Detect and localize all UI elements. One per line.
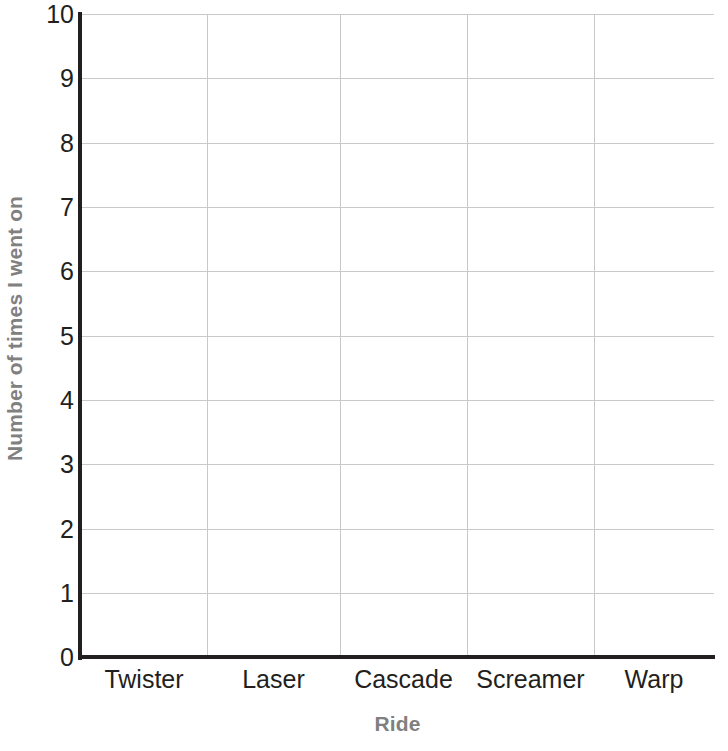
y-axis-tick-labels: 10 9 8 7 6 5 4 3 2 1 0 [30, 0, 74, 680]
gridline-vertical [340, 14, 341, 657]
gridline-horizontal [81, 271, 714, 272]
y-tick-label: 1 [30, 581, 74, 606]
y-tick-label: 5 [30, 324, 74, 349]
gridline-vertical [594, 14, 595, 657]
gridline-horizontal [81, 464, 714, 465]
y-tick-label: 9 [30, 66, 74, 91]
x-tick-label-screamer: Screamer [467, 664, 594, 695]
gridline-horizontal [81, 78, 714, 79]
x-tick-label-cascade: Cascade [340, 664, 467, 695]
gridline-vertical [467, 14, 468, 657]
x-tick-label-laser: Laser [207, 664, 340, 695]
bar-chart: Number of times I went on 10 9 8 7 6 5 4… [0, 0, 728, 751]
plot-area [81, 14, 714, 657]
gridline-horizontal [81, 529, 714, 530]
gridline-horizontal [81, 207, 714, 208]
y-tick-label: 0 [30, 645, 74, 670]
x-tick-label-warp: Warp [594, 664, 714, 695]
y-tick-label: 8 [30, 131, 74, 156]
gridline-horizontal [81, 400, 714, 401]
y-tick-label: 6 [30, 259, 74, 284]
y-tick-label: 4 [30, 388, 74, 413]
gridline-horizontal [81, 143, 714, 144]
x-tick-label-twister: Twister [81, 664, 207, 695]
gridline-horizontal [81, 336, 714, 337]
x-axis-line [78, 655, 715, 659]
x-axis-tick-labels: Twister Laser Cascade Screamer Warp [81, 664, 714, 704]
gridline-vertical [207, 14, 208, 657]
y-tick-label: 2 [30, 517, 74, 542]
y-axis-line [78, 12, 82, 660]
x-axis-title: Ride [81, 712, 714, 736]
y-tick-label: 7 [30, 195, 74, 220]
y-tick-label: 10 [30, 2, 74, 27]
y-axis-title: Number of times I went on [0, 0, 30, 657]
gridline-horizontal [81, 14, 714, 15]
y-tick-label: 3 [30, 452, 74, 477]
gridline-horizontal [81, 593, 714, 594]
